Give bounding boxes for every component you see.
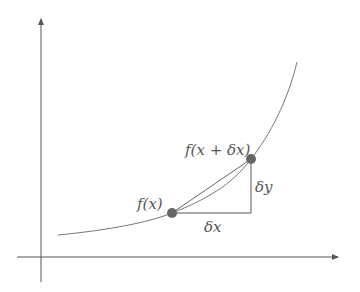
label-fx-dx: f(x + δx)	[184, 141, 250, 159]
label-dy: δy	[255, 178, 273, 196]
secant-line	[172, 159, 251, 213]
point-fx	[167, 208, 177, 218]
label-fx: f(x)	[136, 195, 163, 213]
label-dx: δx	[204, 218, 222, 236]
derivative-diagram: f(x) f(x + δx) δx δy	[0, 0, 360, 292]
